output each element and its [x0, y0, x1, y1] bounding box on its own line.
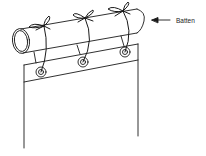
curtain-panel: [24, 44, 138, 148]
batten-arrow: [152, 18, 170, 23]
curtain-batten-diagram: Batten: [0, 0, 206, 156]
tie-3: [108, 2, 130, 52]
batten-label: Batten: [176, 17, 195, 24]
